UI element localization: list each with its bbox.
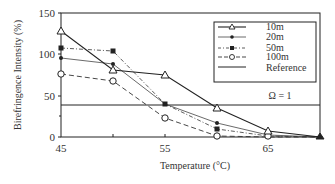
legend-label: 20m (266, 31, 284, 42)
y-tick-label: 50 (44, 90, 56, 102)
legend: 10m 20m 50m 100m Reference (214, 21, 316, 82)
y-axis-title: Birefringence Intensity (%) (12, 20, 24, 130)
legend-label: Reference (266, 62, 307, 73)
y-tick-label: 150 (39, 7, 56, 19)
x-axis-title: Temperature (°C) (160, 160, 230, 172)
omega-annotation: Ω = 1 (268, 90, 291, 101)
legend-label: 100m (266, 51, 289, 62)
x-tick-label: 65 (263, 142, 275, 154)
x-tick-label: 55 (160, 142, 172, 154)
y-tick-label: 100 (39, 48, 56, 60)
chart: 150 100 50 0 45 55 65 Temperature (°C) B… (0, 0, 335, 184)
x-tick-label: 45 (56, 142, 68, 154)
